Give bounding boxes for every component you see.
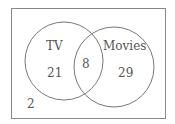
intersection-count: 8 — [82, 58, 90, 70]
tv-label: TV — [46, 40, 63, 52]
tv-only-count: 21 — [47, 67, 62, 79]
movies-label: Movies — [103, 40, 146, 52]
movies-only-count: 29 — [118, 67, 133, 79]
outside-count: 2 — [27, 98, 35, 110]
